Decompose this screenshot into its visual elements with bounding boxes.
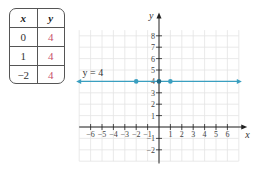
x-tick-label: 1 — [168, 130, 172, 139]
y-tick-label: −2 — [146, 146, 155, 155]
x-tick-label: −6 — [86, 130, 95, 139]
x-tick-label: 6 — [225, 130, 229, 139]
x-tick-label: −2 — [132, 130, 141, 139]
x-tick-label: 5 — [214, 130, 218, 139]
coordinate-plane: xy−6−5−4−3−2−1123456−2−112345678y = 4 — [0, 0, 261, 175]
x-tick-label: −5 — [98, 130, 107, 139]
y-tick-label: 3 — [151, 89, 155, 98]
equation-label: y = 4 — [83, 67, 104, 78]
x-tick-label: −4 — [109, 130, 118, 139]
x-axis-label: x — [244, 129, 250, 140]
x-tick-label: −3 — [121, 130, 130, 139]
y-axis-arrow-icon — [157, 13, 162, 19]
data-point — [134, 79, 139, 84]
data-point — [168, 79, 173, 84]
y-tick-label: 6 — [151, 55, 155, 64]
x-tick-label: 4 — [203, 130, 207, 139]
left-arrow-icon — [76, 79, 81, 84]
y-axis-label: y — [148, 10, 154, 21]
right-arrow-icon — [237, 79, 242, 84]
y-tick-label: −1 — [146, 134, 155, 143]
y-tick-label: 7 — [151, 43, 155, 52]
x-tick-label: 2 — [180, 130, 184, 139]
x-tick-label: 3 — [191, 130, 195, 139]
data-point — [157, 79, 162, 84]
y-tick-label: 8 — [151, 32, 155, 41]
y-tick-label: 1 — [151, 112, 155, 121]
y-tick-label: 5 — [151, 66, 155, 75]
y-tick-label: 2 — [151, 100, 155, 109]
